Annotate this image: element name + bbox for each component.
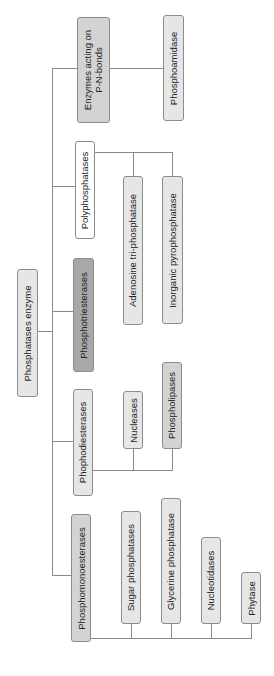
node-label: Phosphomonoesterases bbox=[76, 527, 87, 629]
mono-drop-glycerine bbox=[171, 624, 172, 638]
node-phospholipases: Phospholipases bbox=[162, 362, 182, 449]
node-inorganic-pyrophosphatase: Inorganic pyrophosphatase bbox=[162, 176, 183, 324]
node-phosphotriesterases: Phosphotriesterases bbox=[73, 258, 94, 372]
node-enzymes-pn-bonds: Enzymes acting on P-N-bonds bbox=[77, 17, 110, 123]
node-label: Polyphosphatases bbox=[80, 151, 91, 229]
node-phophodiesterases: Phophodiesterases bbox=[73, 389, 93, 496]
node-label: Phophodiesterases bbox=[78, 402, 89, 483]
node-glycerine-phosphatase: Glycerine phosphatase bbox=[161, 498, 181, 624]
node-label: Phosphatases enzyme bbox=[22, 285, 33, 381]
diest-children-bar bbox=[93, 470, 173, 471]
main-trunk bbox=[52, 68, 53, 576]
node-root: Phosphatases enzyme bbox=[17, 269, 38, 397]
node-label: Phytase bbox=[246, 581, 257, 615]
node-label: Phosphotriesterases bbox=[78, 272, 89, 359]
node-phosphoamidase: Phosphoamidase bbox=[163, 15, 184, 121]
diest-drop-phospholipases bbox=[172, 449, 173, 470]
node-phosphomonoesterases: Phosphomonoesterases bbox=[71, 514, 91, 642]
node-label: Nucleotidases bbox=[206, 551, 217, 611]
poly-drop-inorganic bbox=[172, 152, 173, 176]
node-label: Nucleases bbox=[128, 398, 139, 442]
pn-to-phosphoamidase bbox=[110, 68, 163, 69]
node-sugar-phosphatases: Sugar phosphatases bbox=[121, 511, 141, 624]
node-label: Adenosine tri-phosphatase bbox=[128, 194, 139, 307]
node-polyphosphatases: Polyphosphatases bbox=[75, 141, 95, 239]
node-label: Phosphoamidase bbox=[168, 31, 179, 104]
branch-phophodiesterases bbox=[52, 441, 73, 442]
mono-drop-phytase bbox=[251, 624, 252, 638]
mono-drop-nucleotidases bbox=[211, 624, 212, 638]
node-label: Sugar phosphatases bbox=[126, 524, 137, 611]
node-nucleotidases: Nucleotidases bbox=[201, 537, 221, 624]
node-phytase: Phytase bbox=[241, 572, 261, 624]
branch-phosphomonoesterases bbox=[52, 575, 71, 576]
diest-drop-nucleases bbox=[133, 449, 134, 470]
branch-polyphosphatases bbox=[52, 186, 75, 187]
poly-children-bar bbox=[95, 152, 173, 153]
node-label: Phospholipases bbox=[167, 372, 178, 439]
root-connector bbox=[37, 331, 52, 332]
mono-drop-sugar bbox=[131, 624, 132, 638]
node-label: Inorganic pyrophosphatase bbox=[167, 193, 178, 308]
mono-children-bar bbox=[91, 638, 252, 639]
branch-pn-bonds bbox=[52, 68, 77, 69]
poly-drop-adenosine bbox=[133, 152, 134, 176]
node-label: Enzymes acting on P-N-bonds bbox=[83, 30, 105, 110]
node-adenosine-triphosphatase: Adenosine tri-phosphatase bbox=[123, 176, 143, 325]
node-label: Glycerine phosphatase bbox=[166, 512, 177, 609]
node-nucleases: Nucleases bbox=[123, 391, 143, 449]
branch-phosphotriesterases bbox=[52, 311, 73, 312]
